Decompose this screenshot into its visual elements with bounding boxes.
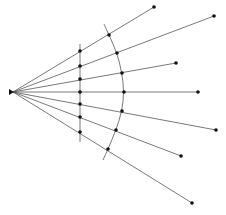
plane-dot bbox=[78, 102, 82, 106]
arc-dot bbox=[106, 147, 110, 151]
ray-endpoint-dot bbox=[174, 61, 178, 65]
ray-2 bbox=[13, 16, 214, 92]
arc-dot bbox=[115, 51, 119, 55]
plane-dot bbox=[78, 49, 82, 53]
ray-endpoint-dot bbox=[190, 201, 194, 205]
plane-dot bbox=[78, 90, 82, 94]
ray-endpoint-dot bbox=[212, 14, 216, 18]
ray-endpoint-dot bbox=[152, 5, 156, 9]
plane-dot bbox=[78, 77, 82, 81]
ray-endpoint-dot bbox=[196, 90, 200, 94]
arc-dot bbox=[114, 128, 118, 132]
plane-dot bbox=[78, 130, 82, 134]
ray-endpoint-dot bbox=[214, 128, 218, 132]
plane-dot bbox=[78, 64, 82, 68]
ray-endpoint-dot bbox=[179, 154, 183, 158]
ray-diagram bbox=[0, 0, 226, 215]
plane-dot bbox=[78, 115, 82, 119]
ray-6 bbox=[13, 92, 181, 156]
arc-dot bbox=[120, 109, 124, 113]
arc-dot bbox=[107, 33, 111, 37]
arc-dot bbox=[120, 71, 124, 75]
ray-endpoint-dots bbox=[152, 5, 218, 205]
arc-dot bbox=[122, 90, 126, 94]
source-emitter-icon bbox=[9, 89, 14, 95]
rays-group bbox=[13, 7, 216, 203]
